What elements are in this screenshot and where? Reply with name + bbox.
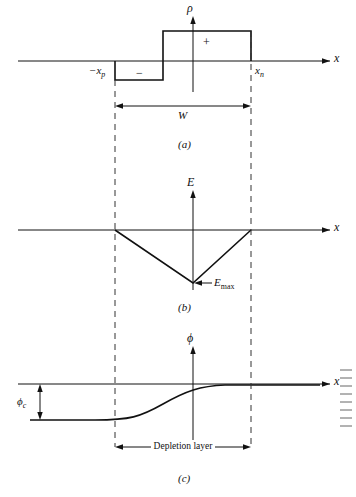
emax-label: Emax: [214, 277, 234, 291]
panel-b-letter: (b): [178, 302, 191, 313]
panel-c-horizontal-axis-label: x: [334, 375, 339, 387]
right-depletion-edge-subscript: n: [260, 70, 264, 79]
panel-a-letter: (a): [178, 139, 191, 150]
electric-field-profile: [115, 230, 251, 283]
pn-junction-figure: [0, 0, 356, 497]
width-label: W: [178, 110, 187, 121]
panel-a-horizontal-axis-label: x: [334, 52, 339, 64]
depletion-width-arrow: [115, 103, 251, 108]
left-depletion-edge-label: −xp: [89, 65, 105, 79]
panel-a-axes: [18, 16, 330, 92]
margin-tick-marks: [340, 370, 352, 426]
panel-a-vertical-axis-label: ρ: [187, 2, 193, 14]
right-depletion-edge-label: xn: [255, 65, 264, 79]
potential-profile: [30, 385, 320, 420]
depletion-layer-label: Depletion layer: [151, 442, 216, 452]
panel-c-letter: (c): [178, 473, 190, 484]
emax-text: E: [214, 276, 221, 288]
left-depletion-edge-text: −x: [89, 64, 101, 76]
emax-subscript: max: [221, 282, 235, 291]
emax-pointer: [194, 280, 212, 285]
plus-region-sign: +: [203, 36, 210, 48]
panel-b-axes: [18, 190, 330, 290]
panel-b-horizontal-axis-label: x: [334, 221, 339, 233]
contact-potential-label: ϕc: [17, 396, 26, 410]
panel-c-axes: [18, 346, 330, 440]
panel-b-vertical-axis-label: E: [187, 176, 194, 188]
contact-potential-subscript: c: [23, 401, 27, 410]
left-depletion-edge-subscript: p: [101, 70, 105, 79]
panel-c-vertical-axis-label: ϕ: [187, 332, 193, 344]
contact-potential-arrow: [37, 384, 42, 420]
minus-region-sign: −: [136, 67, 143, 79]
